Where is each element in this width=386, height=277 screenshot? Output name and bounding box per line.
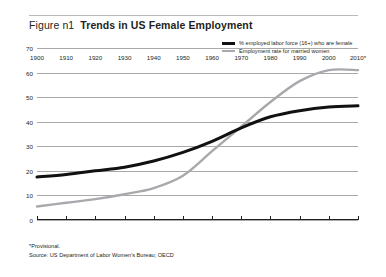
series-line-0 — [37, 106, 358, 177]
legend-label-0: % employed labor force (16+) who are fem… — [239, 41, 352, 47]
series-line-1 — [37, 69, 358, 206]
footnote-source: Source: US Department of Labor Women's B… — [29, 252, 329, 259]
x-axis-tickmark — [66, 216, 67, 220]
x-axis-tick-label: 1980 — [264, 54, 278, 61]
x-axis-tickmark — [154, 216, 155, 220]
x-axis-tickmark — [125, 216, 126, 220]
y-axis-tick-label: 70 — [26, 45, 33, 52]
x-axis-tick-label: 2000 — [322, 54, 336, 61]
series-lines — [37, 48, 358, 220]
footnote-provisional: *Provisional. — [29, 243, 329, 250]
x-axis-tick-label: 2010* — [350, 54, 366, 61]
figure-number: Figure n1 — [29, 19, 74, 31]
x-axis-tickmark — [358, 216, 359, 220]
y-axis-tick-label: 20 — [26, 167, 33, 174]
x-axis-line — [37, 219, 358, 220]
x-axis-tickmark — [241, 216, 242, 220]
x-axis-tickmark — [329, 216, 330, 220]
chart-plot-area: 010203040506070 190019101920193019401950… — [37, 48, 358, 220]
legend-item-0: % employed labor force (16+) who are fem… — [222, 41, 382, 47]
page-title: Figure n1 Trends in US Female Employment — [29, 19, 369, 33]
x-axis-tick-label: 1950 — [176, 54, 190, 61]
footnotes: *Provisional. Source: US Department of L… — [29, 243, 329, 259]
legend-swatch-icon-0 — [222, 42, 235, 45]
x-axis-tickmark — [270, 216, 271, 220]
x-axis-tick-label: 1930 — [118, 54, 132, 61]
figure-title: Trends in US Female Employment — [80, 19, 252, 31]
y-axis-tick-label: 60 — [26, 69, 33, 76]
x-axis-tick-label: 1990 — [293, 54, 307, 61]
x-axis-tick-label: 1900 — [30, 54, 44, 61]
x-axis-tick-label: 1910 — [59, 54, 73, 61]
x-axis-tickmark — [37, 216, 38, 220]
x-axis-tick-label: 1940 — [147, 54, 161, 61]
gridline — [37, 220, 358, 221]
x-axis-tick-label: 1960 — [205, 54, 219, 61]
x-axis-tickmark — [300, 216, 301, 220]
y-axis-tick-label: 30 — [26, 143, 33, 150]
x-axis-tick-label: 1920 — [88, 54, 102, 61]
y-axis-tick-label: 50 — [26, 94, 33, 101]
x-axis-tickmark — [183, 216, 184, 220]
x-axis-tickmark — [212, 216, 213, 220]
y-axis-tick-label: 0 — [30, 217, 33, 224]
y-axis-tick-label: 40 — [26, 118, 33, 125]
x-axis-tickmark — [95, 216, 96, 220]
x-axis-tick-label: 1970 — [234, 54, 248, 61]
title-divider — [29, 15, 358, 16]
y-axis-tick-label: 10 — [26, 192, 33, 199]
